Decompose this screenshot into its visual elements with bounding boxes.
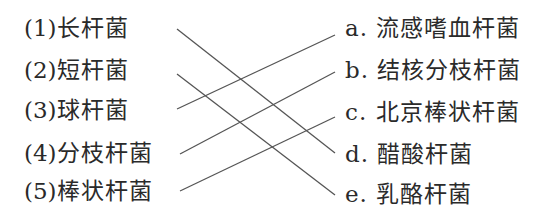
item-letter: a. bbox=[345, 15, 368, 41]
item-letter: c. bbox=[345, 99, 367, 125]
right-item-b: b. 结核分枝杆菌 bbox=[345, 55, 521, 85]
item-label: 流感嗜血杆菌 bbox=[376, 15, 520, 41]
right-item-a: a. 流感嗜血杆菌 bbox=[345, 13, 520, 43]
item-label: 结核分枝杆菌 bbox=[377, 57, 521, 83]
right-item-e: e. 乳酪杆菌 bbox=[345, 179, 472, 209]
connector-3-a bbox=[177, 35, 335, 109]
item-label: 北京棒状杆菌 bbox=[376, 99, 520, 125]
item-label: 乳酪杆菌 bbox=[376, 181, 472, 207]
connector-5-c bbox=[180, 117, 335, 191]
item-letter: e. bbox=[345, 181, 368, 207]
item-letter: b. bbox=[345, 57, 369, 83]
right-item-c: c. 北京棒状杆菌 bbox=[345, 97, 520, 127]
connector-4-b bbox=[180, 72, 335, 154]
item-label: 醋酸杆菌 bbox=[377, 141, 473, 167]
right-item-d: d. 醋酸杆菌 bbox=[345, 139, 473, 169]
item-letter: d. bbox=[345, 141, 369, 167]
